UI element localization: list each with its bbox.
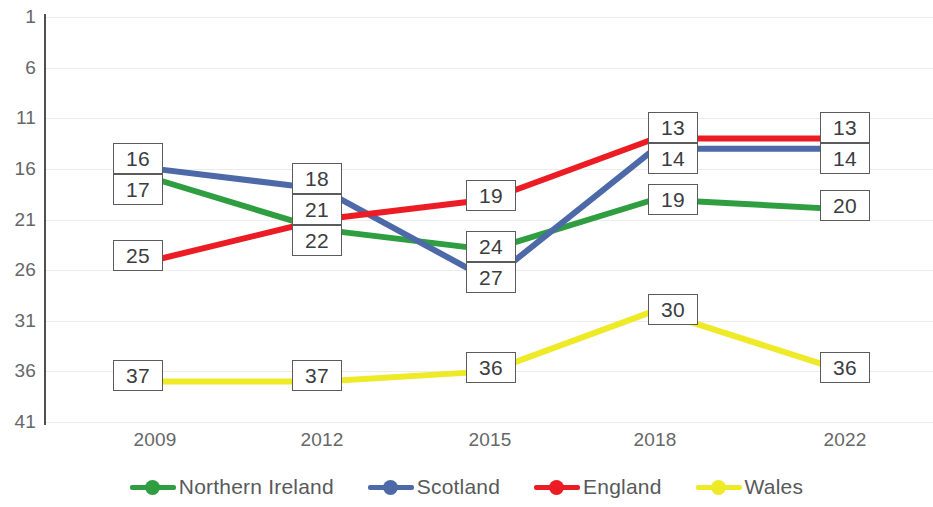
x-axis-tick-label: 2022 [785,430,905,449]
legend-item-northern-ireland[interactable]: Northern Ireland [130,476,334,497]
data-label: 14 [648,143,698,174]
data-label: 36 [466,352,516,383]
line-dot-marker-icon [368,479,414,495]
legend-item-england[interactable]: England [534,476,661,497]
data-label: 13 [820,112,870,143]
data-label: 25 [113,240,163,271]
line-dot-marker-icon [696,479,742,495]
data-label: 19 [466,180,516,211]
x-axis-tick-label: 2018 [595,430,715,449]
data-label: 14 [820,143,870,174]
legend-item-wales[interactable]: Wales [696,476,804,497]
line-chart: 1611162126313641 16172537182122371924273… [0,0,933,507]
legend-label: Wales [745,476,804,497]
data-label: 36 [820,352,870,383]
legend-item-scotland[interactable]: Scotland [368,476,500,497]
data-label: 19 [648,184,698,215]
data-label: 18 [292,163,342,194]
data-label: 21 [292,194,342,225]
data-label: 13 [648,112,698,143]
x-axis-tick-label: 2012 [262,430,382,449]
x-axis-tick-label: 2009 [95,430,215,449]
legend-label: England [583,476,661,497]
data-label: 27 [466,262,516,293]
legend-label: Scotland [417,476,500,497]
plot-area: 1611162126313641 16172537182122371924273… [0,0,933,440]
legend: Northern IrelandScotlandEnglandWales [0,466,933,507]
data-label: 37 [292,360,342,391]
line-dot-marker-icon [534,479,580,495]
data-label: 17 [113,174,163,205]
data-label: 20 [820,190,870,221]
data-label: 30 [648,294,698,325]
line-dot-marker-icon [130,479,176,495]
data-label: 24 [466,231,516,262]
data-label: 16 [113,143,163,174]
data-label: 37 [113,360,163,391]
x-axis-tick-label: 2015 [430,430,550,449]
data-label: 22 [292,225,342,256]
legend-label: Northern Ireland [179,476,334,497]
